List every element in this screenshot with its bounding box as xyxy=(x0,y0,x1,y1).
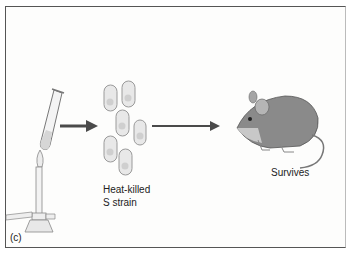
bacteria-cells-icon xyxy=(104,81,146,175)
bacteria-label-line2: S strain xyxy=(103,197,137,209)
bunsen-burner-icon xyxy=(6,167,55,232)
bacteria-label-line1: Heat-killed xyxy=(103,184,150,196)
arrow-right-icon xyxy=(60,120,98,132)
diagram-illustration xyxy=(0,0,352,253)
mouse-outcome-label: Survives xyxy=(271,167,309,179)
mouse-icon xyxy=(237,91,324,168)
flame-icon xyxy=(37,150,43,167)
arrow-right-icon xyxy=(152,121,220,131)
panel-label: (c) xyxy=(10,232,22,244)
test-tube-icon xyxy=(40,89,64,150)
